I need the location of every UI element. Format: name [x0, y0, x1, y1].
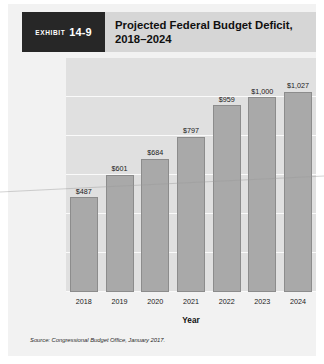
bar-slot: $684 [140, 58, 170, 292]
bar[interactable] [106, 175, 134, 292]
x-axis-title: Year [66, 316, 316, 325]
x-axis-tick-label: 2020 [140, 297, 170, 306]
x-axis-tick-label: 2022 [212, 297, 242, 306]
exhibit-badge: Exhibit 14-9 [22, 12, 105, 52]
plot-wrapper: 0$200$400$600$800$1,000$1,200 $487$601$6… [66, 58, 316, 292]
x-axis-tick-labels: 2018201920202021202220232024 [66, 294, 316, 308]
source-note: Source: Congressional Budget Office, Jan… [30, 337, 165, 343]
plot-area: 0$200$400$600$800$1,000$1,200 $487$601$6… [66, 58, 316, 292]
bar-series: $487$601$684$797$959$1,000$1,027 [66, 58, 316, 292]
x-axis-tick-label: 2019 [105, 297, 135, 306]
bar-value-label: $487 [76, 187, 92, 196]
bar-value-label: $601 [112, 164, 128, 173]
bar[interactable] [284, 92, 312, 292]
exhibit-title-line-2: 2018–2024 [115, 32, 316, 46]
x-axis-tick-label: 2018 [69, 297, 99, 306]
bar-slot: $1,027 [283, 58, 313, 292]
bar-slot: $959 [212, 58, 242, 292]
bar-value-label: $959 [219, 95, 235, 104]
bar-slot: $797 [176, 58, 206, 292]
bar-value-label: $1,000 [251, 87, 273, 96]
bar-slot: $1,000 [247, 58, 277, 292]
x-axis-tick-label: 2021 [176, 297, 206, 306]
chart: Budget deficit (in billions of dollars) … [22, 58, 316, 326]
exhibit-panel: Exhibit 14-9 Projected Federal Budget De… [8, 4, 316, 356]
exhibit-title-line-1: Projected Federal Budget Deficit, [115, 18, 316, 32]
exhibit-header: Exhibit 14-9 Projected Federal Budget De… [22, 12, 316, 52]
bar[interactable] [141, 159, 169, 292]
x-axis-tick-label: 2023 [247, 297, 277, 306]
bar-value-label: $684 [147, 148, 163, 157]
bar[interactable] [70, 197, 98, 292]
bar[interactable] [248, 97, 276, 292]
exhibit-badge-number: 14-9 [69, 26, 91, 38]
exhibit-title: Projected Federal Budget Deficit, 2018–2… [105, 12, 316, 52]
bar-value-label: $797 [183, 126, 199, 135]
x-axis-tick-label: 2024 [283, 297, 313, 306]
bar-slot: $601 [105, 58, 135, 292]
exhibit-badge-word: Exhibit [35, 29, 65, 36]
bar-value-label: $1,027 [287, 81, 309, 90]
bar[interactable] [213, 105, 241, 292]
bar-slot: $487 [69, 58, 99, 292]
bar[interactable] [177, 137, 205, 292]
